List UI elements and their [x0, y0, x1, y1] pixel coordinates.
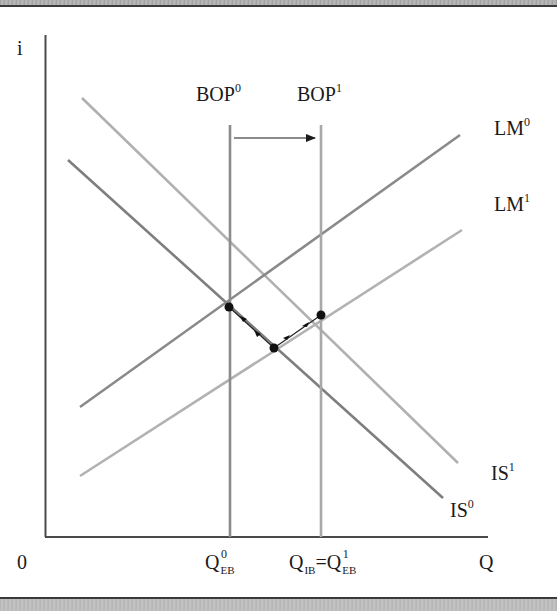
- q-eb0-label: Q0EB: [205, 552, 235, 572]
- bop1-label: BOP1: [297, 84, 342, 104]
- is1-curve: [82, 98, 458, 463]
- frame-bottom-border: [0, 597, 557, 611]
- is1-label: IS1: [491, 463, 515, 483]
- origin-label: 0: [17, 552, 27, 572]
- x-axis-label: Q: [479, 552, 493, 572]
- lm1-label: LM1: [494, 194, 530, 214]
- y-axis-label: i: [17, 38, 23, 58]
- equilibrium-point-final: [317, 311, 326, 320]
- equilibrium-point-initial: [225, 303, 234, 312]
- is0-label: IS0: [450, 500, 474, 520]
- equilibrium-point-intermediate: [270, 344, 279, 353]
- q-ib-equals-q-eb1-label: QIB=Q1EB: [289, 552, 356, 572]
- lm1-curve: [80, 230, 462, 476]
- lm0-curve: [80, 135, 460, 407]
- lm0-label: LM0: [494, 118, 530, 138]
- bop0-label: BOP0: [196, 84, 241, 104]
- path-arrow-icon: [302, 322, 309, 327]
- adjustment-path: [229, 307, 321, 348]
